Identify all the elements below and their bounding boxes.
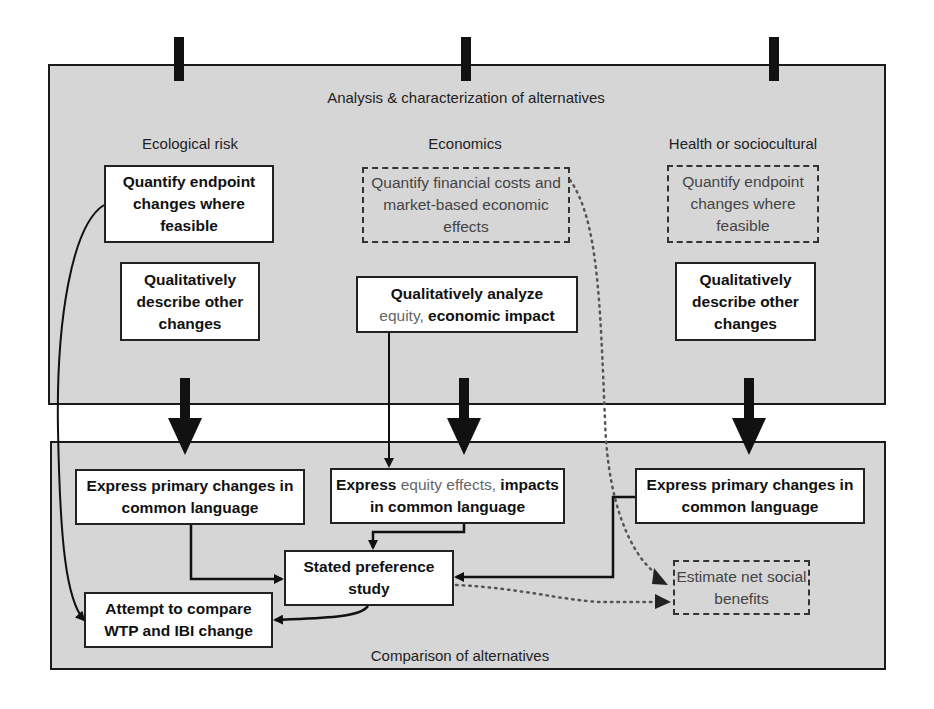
health-express-text: Express primary changes in common langua… (637, 474, 863, 518)
econ-express-bold2: impacts (500, 476, 559, 493)
econ-qualitative-impact: economic impact (428, 307, 555, 324)
health-quantify-text: Quantify endpoint changes where feasible (669, 171, 817, 237)
econ-express-box: Express equity effects, impacts in commo… (330, 468, 565, 524)
column-heading-health-sociocultural: Health or sociocultural (669, 135, 817, 152)
column-heading-economics: Economics (428, 135, 501, 152)
econ-qualitative-line1: Qualitatively analyze (391, 285, 544, 302)
net-benefits-text: Estimate net social benefits (675, 566, 808, 610)
analysis-panel-title: Analysis & characterization of alternati… (327, 89, 605, 106)
compare-wtp-ibi-text: Attempt to compare WTP and IBI change (86, 598, 271, 642)
health-qualitative-box: Qualitatively describe other changes (675, 262, 816, 341)
econ-quantify-text: Quantify financial costs and market-base… (364, 172, 568, 238)
eco-qualitative-text: Qualitatively describe other changes (122, 269, 258, 335)
health-quantify-box: Quantify endpoint changes where feasible (667, 165, 819, 243)
econ-express-text: Express equity effects, impacts in commo… (336, 474, 559, 518)
stated-preference-text: Stated preference study (286, 556, 452, 600)
eco-qualitative-box: Qualitatively describe other changes (120, 262, 260, 341)
eco-quantify-box: Quantify endpoint changes where feasible (104, 165, 274, 243)
stated-preference-box: Stated preference study (284, 550, 454, 606)
econ-express-line2: in common language (370, 498, 525, 515)
compare-wtp-ibi-box: Attempt to compare WTP and IBI change (84, 592, 273, 648)
econ-quantify-box: Quantify financial costs and market-base… (362, 167, 570, 243)
econ-qualitative-box: Qualitatively analyze equity, economic i… (356, 276, 578, 333)
comparison-panel-title: Comparison of alternatives (371, 647, 549, 664)
eco-express-box: Express primary changes in common langua… (75, 469, 305, 525)
eco-express-text: Express primary changes in common langua… (77, 475, 303, 519)
econ-qualitative-text: Qualitatively analyze equity, economic i… (379, 283, 554, 327)
net-benefits-box: Estimate net social benefits (673, 560, 810, 615)
econ-express-bold1: Express (336, 476, 396, 493)
column-heading-ecological-risk: Ecological risk (142, 135, 238, 152)
eco-quantify-text: Quantify endpoint changes where feasible (106, 171, 272, 237)
health-qualitative-text: Qualitatively describe other changes (677, 269, 814, 335)
econ-qualitative-equity: equity, (379, 307, 424, 324)
health-express-box: Express primary changes in common langua… (635, 468, 865, 524)
econ-express-equity: equity effects, (401, 476, 496, 493)
